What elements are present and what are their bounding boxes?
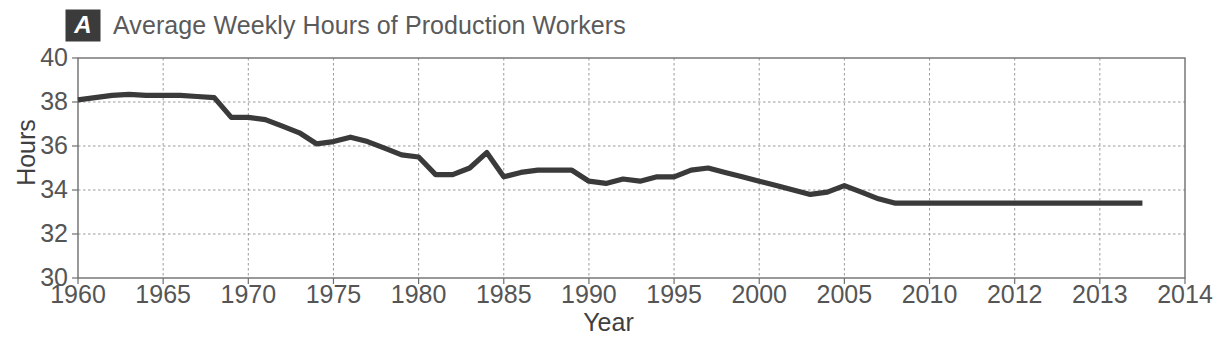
- grid-lines: [78, 58, 1185, 278]
- axis-ticks: [72, 58, 1185, 284]
- data-series: [78, 94, 1142, 203]
- plot-frame: [78, 58, 1185, 278]
- line-chart-plot: [0, 0, 1217, 346]
- figure-panel-a: A Average Weekly Hours of Production Wor…: [0, 0, 1217, 346]
- series-line-average-weekly-hours: [78, 94, 1142, 203]
